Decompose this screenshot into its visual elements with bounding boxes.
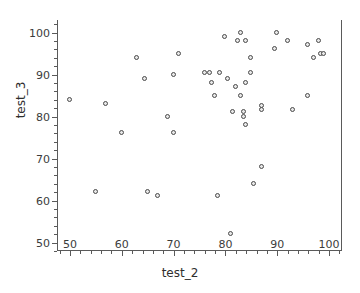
y-tick-major: [52, 243, 57, 244]
y-tick-major: [52, 33, 57, 34]
y-tick-minor: [54, 66, 57, 67]
data-point: [241, 114, 246, 119]
y-tick-minor: [54, 217, 57, 218]
data-point: [251, 181, 256, 186]
x-tick-minor: [236, 251, 237, 254]
data-point: [142, 76, 147, 81]
data-point: [176, 51, 181, 56]
data-point: [209, 80, 214, 85]
data-point: [93, 189, 98, 194]
y-tick-major: [52, 159, 57, 160]
x-tick-minor: [143, 251, 144, 254]
y-axis-title-wrap: test_3: [20, 0, 40, 231]
y-tick-minor: [54, 49, 57, 50]
data-point: [212, 93, 217, 98]
data-point: [230, 109, 235, 114]
y-tick-minor: [54, 209, 57, 210]
x-tick-minor: [246, 251, 247, 254]
x-tick-label: 50: [63, 238, 77, 251]
y-tick-minor: [54, 100, 57, 101]
data-point: [285, 38, 290, 43]
data-point: [217, 70, 222, 75]
y-tick-minor: [54, 133, 57, 134]
data-point: [321, 51, 326, 56]
data-point: [145, 189, 150, 194]
data-point: [215, 193, 220, 198]
x-tick-minor: [132, 251, 133, 254]
x-axis-title: test_2: [0, 266, 360, 280]
data-point: [259, 164, 264, 169]
y-tick-minor: [54, 226, 57, 227]
data-point: [171, 72, 176, 77]
data-point: [233, 84, 238, 89]
data-point: [272, 46, 277, 51]
x-tick-minor: [205, 251, 206, 254]
data-point: [238, 30, 243, 35]
x-tick-minor: [298, 251, 299, 254]
y-tick-label: 50: [36, 236, 50, 249]
data-point: [305, 93, 310, 98]
x-tick-minor: [60, 251, 61, 254]
y-axis-line: [57, 20, 58, 251]
data-point: [155, 193, 160, 198]
x-tick-major: [225, 251, 226, 256]
data-point: [222, 34, 227, 39]
x-tick-label: 70: [167, 238, 181, 251]
data-point: [119, 130, 124, 135]
x-tick-minor: [194, 251, 195, 254]
y-tick-minor: [54, 83, 57, 84]
y-tick-minor: [54, 175, 57, 176]
x-tick-major: [329, 251, 330, 256]
right-axis-line: [341, 20, 342, 251]
x-tick-minor: [257, 251, 258, 254]
y-tick-major: [52, 201, 57, 202]
x-axis-line: [57, 250, 342, 251]
x-tick-minor: [339, 251, 340, 254]
x-tick-major: [174, 251, 175, 256]
y-tick-major: [52, 75, 57, 76]
data-point: [248, 70, 253, 75]
x-tick-label: 100: [319, 238, 340, 251]
x-tick-label: 80: [218, 238, 232, 251]
y-axis-title: test_3: [14, 82, 28, 119]
y-tick-minor: [54, 58, 57, 59]
scatter-chart: 5060708090100 5060708090100 test_2 test_…: [0, 0, 360, 293]
y-tick-minor: [54, 251, 57, 252]
y-tick-minor: [54, 41, 57, 42]
data-point: [67, 97, 72, 102]
plot-area: [57, 20, 342, 251]
y-tick-minor: [54, 150, 57, 151]
x-tick-minor: [215, 251, 216, 254]
x-tick-minor: [101, 251, 102, 254]
x-tick-minor: [308, 251, 309, 254]
x-tick-label: 60: [115, 238, 129, 251]
x-tick-major: [122, 251, 123, 256]
x-tick-minor: [153, 251, 154, 254]
x-tick-minor: [91, 251, 92, 254]
y-tick-minor: [54, 192, 57, 193]
x-tick-minor: [80, 251, 81, 254]
y-tick-minor: [54, 108, 57, 109]
x-tick-major: [277, 251, 278, 256]
x-tick-major: [70, 251, 71, 256]
data-point: [165, 114, 170, 119]
y-tick-minor: [54, 234, 57, 235]
data-point: [305, 42, 310, 47]
x-tick-minor: [267, 251, 268, 254]
data-point: [202, 70, 207, 75]
data-point: [103, 101, 108, 106]
data-point: [207, 70, 212, 75]
x-tick-minor: [163, 251, 164, 254]
y-tick-minor: [54, 167, 57, 168]
x-tick-minor: [184, 251, 185, 254]
data-point: [225, 76, 230, 81]
data-point: [316, 38, 321, 43]
y-tick-major: [52, 117, 57, 118]
data-point: [134, 55, 139, 60]
data-point: [259, 107, 264, 112]
data-point: [243, 80, 248, 85]
data-point: [235, 38, 240, 43]
x-tick-minor: [288, 251, 289, 254]
data-point: [243, 122, 248, 127]
data-point: [311, 55, 316, 60]
